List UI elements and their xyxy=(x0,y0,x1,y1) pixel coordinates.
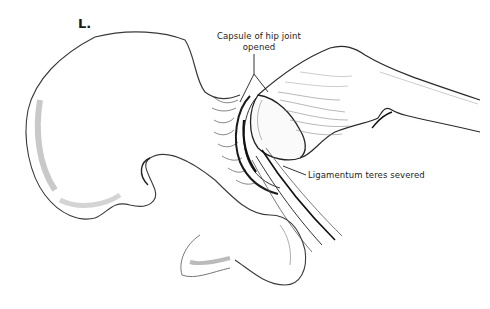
capsule-label: Capsule of hip joint opened xyxy=(206,31,312,53)
capsule-label-line2: opened xyxy=(206,42,312,53)
capsule-fibers xyxy=(212,98,256,184)
anatomical-illustration: L. Capsule of hip joint opened Ligamentu… xyxy=(0,0,490,309)
capsule-label-line1: Capsule of hip joint xyxy=(206,31,312,42)
pelvis-ilium xyxy=(26,32,240,219)
femoral-head xyxy=(251,95,306,160)
ligamentum-label: Ligamentum teres severed xyxy=(308,170,425,181)
panel-label: L. xyxy=(78,16,91,31)
ligamentum-teres xyxy=(252,148,342,252)
ischium xyxy=(181,180,306,285)
